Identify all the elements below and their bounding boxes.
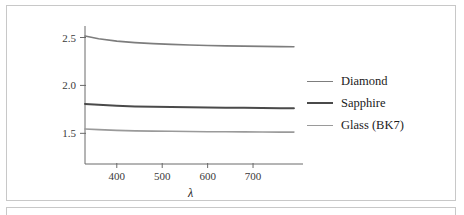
dispersion-figure: 2.52.01.5 400500600700 λ Diamond Sapphir… bbox=[7, 6, 457, 202]
series-line bbox=[85, 129, 294, 132]
legend-item-diamond: Diamond bbox=[307, 70, 447, 92]
legend-item-glass-bk7: Glass (BK7) bbox=[307, 114, 447, 136]
y-tick-label: 1.5 bbox=[62, 127, 76, 139]
y-tick-label: 2.0 bbox=[62, 79, 76, 91]
x-tick-label: 500 bbox=[154, 170, 171, 182]
x-tick-label: 700 bbox=[245, 170, 262, 182]
figure-cell: 2.52.01.5 400500600700 λ Diamond Sapphir… bbox=[6, 5, 456, 201]
x-tick-label: 600 bbox=[199, 170, 216, 182]
y-axis-ticks: 2.52.01.5 bbox=[62, 32, 86, 140]
x-axis-ticks: 400500600700 bbox=[109, 163, 262, 182]
series-line bbox=[85, 36, 294, 47]
legend-swatch-sapphire bbox=[307, 102, 333, 104]
x-tick-label: 400 bbox=[109, 170, 126, 182]
chart-legend: Diamond Sapphire Glass (BK7) bbox=[307, 70, 447, 136]
next-document-cell bbox=[6, 207, 456, 215]
y-tick-label: 2.5 bbox=[62, 32, 76, 44]
legend-swatch-diamond bbox=[307, 81, 333, 82]
legend-label-sapphire: Sapphire bbox=[341, 97, 385, 110]
legend-swatch-glass-bk7 bbox=[307, 125, 333, 126]
legend-label-glass-bk7: Glass (BK7) bbox=[341, 119, 404, 132]
legend-label-diamond: Diamond bbox=[341, 75, 388, 88]
legend-item-sapphire: Sapphire bbox=[307, 92, 447, 114]
x-axis-label: λ bbox=[188, 186, 193, 201]
data-series-group bbox=[85, 36, 294, 132]
series-line bbox=[85, 104, 294, 108]
